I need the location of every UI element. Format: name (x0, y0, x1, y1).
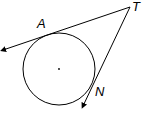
label-A: A (36, 16, 46, 31)
label-N: N (95, 84, 105, 99)
tangent-diagram: A T N (0, 0, 147, 118)
center-point (58, 68, 60, 70)
tangent-line-TA (3, 7, 130, 50)
tangent-line-TN (83, 7, 130, 106)
label-T: T (132, 0, 141, 14)
